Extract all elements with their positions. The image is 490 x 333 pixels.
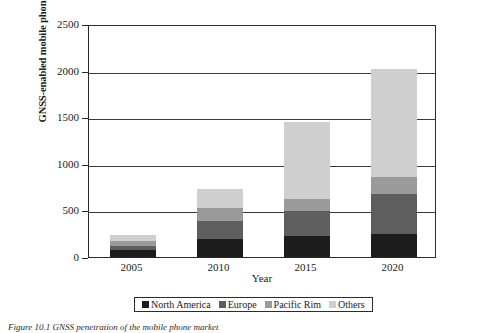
bar-group bbox=[284, 24, 330, 257]
legend-item: Others bbox=[329, 300, 365, 310]
y-tick-label: 1000 bbox=[19, 159, 79, 170]
legend-swatch bbox=[265, 301, 272, 308]
bar-segment bbox=[197, 239, 243, 257]
bar-segment bbox=[371, 234, 417, 257]
figure-caption: Figure 10.1 GNSS penetration of the mobi… bbox=[8, 322, 482, 333]
bar-segment bbox=[284, 236, 330, 257]
legend-swatch bbox=[329, 301, 336, 308]
bar-segment bbox=[110, 250, 156, 257]
legend-label: Others bbox=[338, 300, 365, 310]
x-axis-title: Year bbox=[88, 272, 436, 284]
legend-label: Europe bbox=[228, 300, 257, 310]
y-tick-mark bbox=[82, 258, 88, 259]
legend-item: North America bbox=[142, 300, 211, 310]
y-axis-title-wrap: GNSS-enabled mobile phones in millions bbox=[0, 25, 26, 258]
plot-area bbox=[88, 25, 436, 258]
legend-swatch bbox=[219, 301, 226, 308]
bar-group bbox=[197, 24, 243, 257]
y-tick-label: 0 bbox=[19, 252, 79, 263]
legend-swatch bbox=[142, 301, 149, 308]
y-axis-title: GNSS-enabled mobile phones in millions bbox=[35, 0, 51, 150]
bar-group bbox=[371, 24, 417, 257]
legend-label: North America bbox=[151, 300, 211, 310]
legend-item: Europe bbox=[219, 300, 257, 310]
y-tick-label: 500 bbox=[19, 205, 79, 216]
bar-group bbox=[110, 24, 156, 257]
legend-label: Pacific Rim bbox=[274, 300, 322, 310]
legend-item: Pacific Rim bbox=[265, 300, 322, 310]
chart-legend: North AmericaEuropePacific RimOthers bbox=[134, 297, 373, 312]
